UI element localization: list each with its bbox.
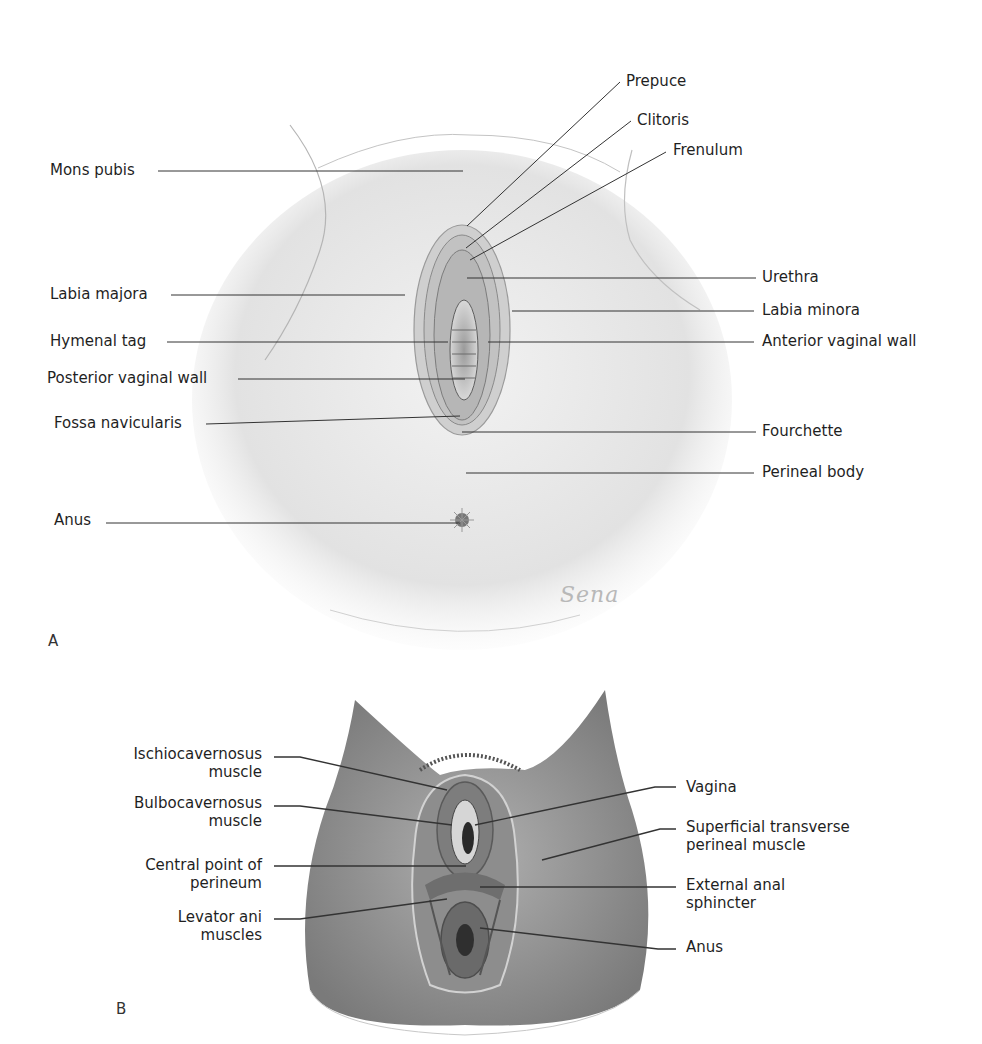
artist-signature: Sena xyxy=(560,582,619,607)
label-clitoris: Clitoris xyxy=(637,111,689,129)
label-hymenal-tag: Hymenal tag xyxy=(50,332,146,350)
label-labia-majora: Labia majora xyxy=(50,285,148,303)
label-ischiocavernosus: Ischiocavernosus muscle xyxy=(112,745,262,781)
label-labia-minora: Labia minora xyxy=(762,301,860,319)
label-anterior-vaginal-wall: Anterior vaginal wall xyxy=(762,332,917,350)
label-vagina: Vagina xyxy=(686,778,737,796)
label-external-anal-sphincter: External anal sphincter xyxy=(686,876,785,912)
label-perineal-body: Perineal body xyxy=(762,463,864,481)
panel-letter-b: B xyxy=(116,1000,126,1018)
label-fourchette: Fourchette xyxy=(762,422,843,440)
label-fossa-navicularis: Fossa navicularis xyxy=(54,414,182,432)
label-bulbocavernosus: Bulbocavernosus muscle xyxy=(112,794,262,830)
label-posterior-vaginal-wall: Posterior vaginal wall xyxy=(47,369,207,387)
label-urethra: Urethra xyxy=(762,268,819,286)
label-mons-pubis: Mons pubis xyxy=(50,161,135,179)
label-anus-a: Anus xyxy=(54,511,91,529)
label-superficial-transverse-perineal-muscle: Superficial transverse perineal muscle xyxy=(686,818,850,854)
panel-letter-a: A xyxy=(48,632,58,650)
label-prepuce: Prepuce xyxy=(626,72,686,90)
label-central-point-of-perineum: Central point of perineum xyxy=(112,856,262,892)
label-frenulum: Frenulum xyxy=(673,141,743,159)
panel-b-illustration xyxy=(305,690,648,1035)
panel-a-illustration xyxy=(192,125,732,650)
label-anus-b: Anus xyxy=(686,938,723,956)
label-levator-ani: Levator ani muscles xyxy=(112,908,262,944)
